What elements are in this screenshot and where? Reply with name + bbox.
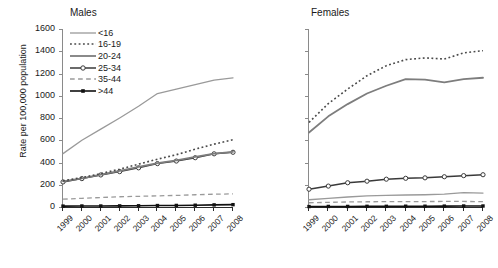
y-tick-label: 0 [21,202,55,211]
x-tick-mark [482,208,483,211]
data-point-marker [194,204,197,207]
series-lines-females [309,29,483,207]
x-tick-mark [194,208,195,211]
y-tick-label: 800 [21,113,55,122]
data-point-marker [365,179,369,183]
data-point-marker [384,177,388,181]
x-tick-mark [405,208,406,211]
data-point-marker [481,173,485,177]
line-series-16_19 [63,140,233,181]
data-point-marker [212,203,215,206]
legend-label: 35-44 [98,74,121,84]
legend-item-16_19[interactable]: 16-19 [70,39,121,51]
x-tick-mark [443,208,444,211]
data-point-marker [326,184,330,188]
y-tick-label: 1600 [21,24,55,33]
legend-swatch-icon [70,39,96,49]
x-tick-mark [463,208,464,211]
x-tick-mark [213,208,214,211]
chart-legend: <1616-1920-2425-3435-44>44 [70,27,121,97]
legend-item-35_44[interactable]: 35-44 [70,73,121,85]
chart-panel-males: Males Rate per 100,000 population 020040… [0,0,249,268]
data-point-marker [156,204,159,207]
legend-item-25_34[interactable]: 25-34 [70,62,121,74]
chart-panel-females: Females 02004006008001000120014001600 19… [249,0,498,268]
y-tick-label: 200 [21,180,55,189]
x-tick-mark [366,208,367,211]
y-tick-label: 1200 [21,69,55,78]
data-point-marker [404,176,408,180]
plot-area-females [308,29,483,208]
legend-swatch-icon [70,63,96,73]
legend-swatch-icon [70,28,96,38]
panel-title-males: Males [70,7,97,18]
y-tick-label: 400 [21,158,55,167]
data-point-marker [175,204,178,207]
line-series-44 [309,206,483,207]
data-point-marker [231,203,234,206]
x-tick-mark [100,208,101,211]
x-tick-mark [347,208,348,211]
figure-two-panel-line-charts: Males Rate per 100,000 population 020040… [0,0,498,268]
line-series-44 [63,205,233,206]
data-point-marker [442,175,446,179]
x-tick-mark [175,208,176,211]
data-point-marker [346,181,350,185]
legend-label: <16 [98,28,113,38]
x-tick-mark [232,208,233,211]
legend-swatch-icon [70,74,96,84]
x-tick-mark [138,208,139,211]
data-point-marker [137,204,140,207]
legend-item-44[interactable]: >44 [70,85,121,97]
line-series-16 [309,193,483,200]
data-point-marker [462,174,466,178]
line-series-35_44 [63,194,233,199]
y-tick-label: 600 [21,135,55,144]
x-tick-mark [424,208,425,211]
y-tick-label: 1400 [21,46,55,55]
legend-item-16[interactable]: <16 [70,27,121,39]
panel-title-females: Females [311,7,349,18]
data-point-marker [423,176,427,180]
legend-label: 20-24 [98,51,121,61]
x-tick-mark [308,208,309,211]
legend-label: 25-34 [98,63,121,73]
line-series-35_44 [309,201,483,202]
data-point-marker [307,187,311,191]
legend-label: >44 [98,86,113,96]
x-tick-mark [62,208,63,211]
x-tick-mark [156,208,157,211]
line-series-20_24 [309,78,483,133]
legend-swatch-icon [70,86,96,96]
x-tick-mark [327,208,328,211]
x-tick-mark [81,208,82,211]
line-series-25_34 [309,175,483,189]
legend-swatch-icon [70,51,96,61]
legend-label: 16-19 [98,39,121,49]
x-tick-mark [385,208,386,211]
y-tick-label: 1000 [21,91,55,100]
x-tick-mark [119,208,120,211]
legend-item-20_24[interactable]: 20-24 [70,50,121,62]
line-series-20_24 [63,152,233,181]
